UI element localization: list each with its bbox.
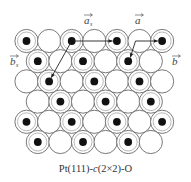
oxygen-adatom [113, 118, 121, 126]
oxygen-adatom [68, 118, 76, 126]
oxygen-adatom [23, 118, 31, 126]
oxygen-adatom [57, 98, 65, 106]
pt-atom [26, 90, 49, 113]
oxygen-adatom [113, 37, 121, 45]
oxygen-adatom [102, 98, 110, 106]
oxygen-adatom [158, 118, 166, 126]
pt-atom [117, 90, 140, 113]
label-b-text: b [172, 55, 178, 67]
pt-atom [83, 110, 106, 133]
pt111-c2x2-o-diagram: a s a b s b [0, 0, 191, 182]
oxygen-adatom [45, 78, 53, 86]
label-a-s-subscript: s [90, 21, 93, 27]
pt-atom [94, 50, 117, 73]
oxygen-adatom [124, 138, 132, 146]
pt-atom [60, 70, 83, 93]
oxygen-adatom [158, 37, 166, 45]
pt-atom [105, 70, 128, 93]
caption-suffix: (2×2)-O [98, 163, 133, 174]
pt-atom [139, 50, 162, 73]
pt-atom [38, 110, 61, 133]
oxygen-adatom [34, 57, 42, 65]
label-a-text: a [135, 14, 141, 26]
oxygen-adatom [23, 37, 31, 45]
label-b-s: b s [10, 55, 19, 69]
oxygen-adatom [79, 57, 87, 65]
oxygen-adatom [124, 57, 132, 65]
label-b-s-subscript: s [16, 62, 19, 68]
label-b: b [172, 55, 181, 68]
figure-caption: Pt(111)-c(2×2)-O [0, 163, 191, 174]
oxygen-adatom [79, 138, 87, 146]
label-a: a [135, 14, 144, 27]
label-a-s: a s [84, 14, 93, 28]
pt-atom [94, 130, 117, 153]
pt-atom [139, 130, 162, 153]
oxygen-adatom [34, 138, 42, 146]
pt-atom [38, 29, 61, 52]
pt-atom [49, 130, 72, 153]
pt-atom [71, 90, 94, 113]
pt-atom-layer [15, 29, 174, 153]
caption-prefix: Pt(111)- [59, 163, 93, 174]
oxygen-adatom [90, 78, 98, 86]
pt-atom [151, 70, 174, 93]
pt-atom [128, 110, 151, 133]
pt-atom [15, 70, 38, 93]
oxygen-adatom [147, 98, 155, 106]
oxygen-adatom [136, 78, 144, 86]
